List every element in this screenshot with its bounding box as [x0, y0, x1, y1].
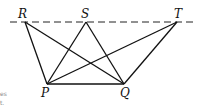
cut-off-text-2: t.: [0, 99, 4, 106]
point-label-T: T: [174, 7, 183, 21]
segment-SQ: [86, 22, 124, 84]
point-label-R: R: [17, 7, 27, 21]
cut-off-text-1: es: [0, 90, 7, 97]
segment-RP: [25, 22, 47, 84]
segment-RQ: [25, 22, 124, 84]
segment-TQ: [124, 22, 177, 84]
point-label-P: P: [40, 86, 50, 100]
triangles-diagram: R S T P Q es t.: [0, 0, 201, 110]
point-label-S: S: [81, 7, 89, 21]
point-label-Q: Q: [120, 86, 130, 100]
segments: [25, 22, 177, 84]
